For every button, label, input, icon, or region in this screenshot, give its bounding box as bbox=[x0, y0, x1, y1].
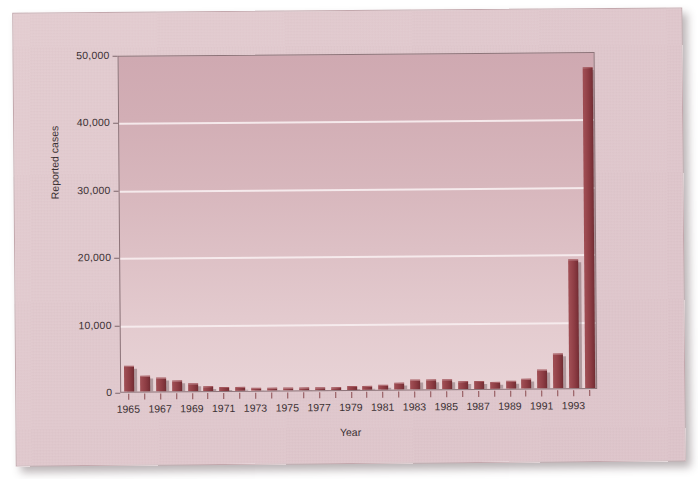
bar[interactable] bbox=[506, 382, 516, 389]
bar[interactable] bbox=[522, 380, 532, 389]
bar[interactable] bbox=[537, 371, 547, 389]
plot-area bbox=[118, 52, 598, 393]
x-axis-tick-mark bbox=[271, 393, 272, 399]
x-axis-tick-label: 1971 bbox=[212, 402, 235, 414]
y-axis-tick-mark bbox=[115, 325, 120, 326]
bar-fill bbox=[522, 379, 532, 389]
y-axis-tick-label: 40,000 bbox=[22, 116, 110, 129]
photo-page-card: 010,00020,00030,00040,00050,000 Reported… bbox=[12, 7, 686, 466]
x-axis-tick-mark bbox=[192, 393, 193, 399]
bar[interactable] bbox=[568, 260, 579, 388]
bar-fill bbox=[204, 386, 214, 391]
bar[interactable] bbox=[267, 388, 277, 390]
bar-fill bbox=[235, 387, 245, 391]
x-axis-tick-mark bbox=[351, 392, 352, 398]
bar-fill bbox=[299, 387, 309, 390]
bar[interactable] bbox=[458, 382, 468, 389]
x-axis-tick-mark bbox=[303, 392, 304, 398]
bar[interactable] bbox=[347, 387, 357, 390]
y-axis-tick-mark bbox=[114, 191, 119, 192]
x-axis-tick-mark bbox=[239, 393, 240, 399]
x-axis-ticks: 1965196719691971197319751977197919811983… bbox=[13, 8, 681, 13]
bar-fill bbox=[568, 259, 579, 388]
bar-fill bbox=[410, 379, 420, 390]
bar-fill bbox=[537, 370, 547, 389]
bar[interactable] bbox=[490, 383, 500, 389]
x-axis-tick-label: 1987 bbox=[466, 400, 489, 412]
bar[interactable] bbox=[235, 388, 245, 391]
bar[interactable] bbox=[410, 380, 420, 390]
x-axis-tick-mark bbox=[224, 393, 225, 399]
bar-fill bbox=[188, 383, 198, 391]
y-axis-tick-mark bbox=[114, 258, 119, 259]
y-axis-ticks: 010,00020,00030,00040,00050,000 bbox=[13, 8, 681, 13]
bar-fill bbox=[347, 386, 357, 390]
x-axis-tick-label: 1969 bbox=[180, 402, 203, 414]
x-axis-tick-mark bbox=[255, 393, 256, 399]
x-axis-tick-mark bbox=[128, 394, 129, 400]
bar[interactable] bbox=[204, 387, 214, 391]
y-axis-tick-label: 50,000 bbox=[22, 49, 110, 62]
x-axis-tick-mark bbox=[542, 390, 543, 396]
x-axis-tick-label: 1979 bbox=[339, 401, 362, 413]
bar[interactable] bbox=[140, 376, 150, 392]
bar-fill bbox=[251, 387, 261, 390]
bar[interactable] bbox=[251, 388, 261, 390]
bar[interactable] bbox=[363, 387, 373, 390]
bar-fill bbox=[315, 387, 325, 390]
y-axis-title: Reported cases bbox=[48, 126, 61, 200]
x-axis-tick-label: 1977 bbox=[307, 401, 330, 413]
bar-fill bbox=[442, 379, 452, 390]
bar[interactable] bbox=[394, 384, 404, 390]
x-axis-tick-label: 1985 bbox=[435, 400, 458, 412]
bar-fill bbox=[379, 385, 389, 390]
bar-fill bbox=[458, 381, 468, 389]
bar[interactable] bbox=[283, 388, 293, 390]
bar[interactable] bbox=[426, 381, 436, 390]
x-axis-tick-mark bbox=[557, 390, 558, 396]
bar[interactable] bbox=[299, 388, 309, 390]
bar-fill bbox=[363, 386, 373, 390]
y-axis-tick-mark bbox=[113, 56, 118, 57]
bar-fill bbox=[156, 378, 166, 392]
bar[interactable] bbox=[379, 386, 389, 390]
bar-fill bbox=[490, 382, 500, 389]
bar[interactable] bbox=[172, 381, 182, 392]
bar-fill bbox=[553, 354, 563, 389]
x-axis-tick-label: 1973 bbox=[244, 402, 267, 414]
bar-fill bbox=[267, 387, 277, 390]
bar-fill bbox=[220, 387, 230, 391]
x-axis-tick-mark bbox=[319, 392, 320, 398]
x-axis-tick-label: 1965 bbox=[117, 403, 140, 415]
bar-fill bbox=[140, 375, 150, 392]
bar[interactable] bbox=[442, 380, 452, 390]
x-axis-tick-label: 1983 bbox=[403, 400, 426, 412]
bar-fill bbox=[474, 381, 484, 389]
bar-fill bbox=[124, 366, 134, 392]
bar[interactable] bbox=[315, 388, 325, 390]
x-axis-tick-label: 1993 bbox=[562, 399, 585, 411]
bar[interactable] bbox=[220, 388, 230, 391]
bar[interactable] bbox=[156, 379, 166, 392]
bar[interactable] bbox=[124, 367, 134, 392]
bar-fill bbox=[331, 387, 341, 390]
bar-chart: 010,00020,00030,00040,00050,000 Reported… bbox=[13, 8, 685, 465]
x-axis-tick-mark bbox=[446, 391, 447, 397]
x-axis-tick-mark bbox=[494, 391, 495, 397]
x-axis-tick-mark bbox=[478, 391, 479, 397]
bar-fill bbox=[506, 381, 516, 389]
bar[interactable] bbox=[553, 355, 563, 389]
bar[interactable] bbox=[331, 388, 341, 390]
x-axis-tick-mark bbox=[510, 391, 511, 397]
bar[interactable] bbox=[474, 382, 484, 389]
x-axis-tick-mark bbox=[414, 391, 415, 397]
bar-fill bbox=[172, 380, 182, 392]
bar-fill bbox=[394, 383, 404, 390]
bar[interactable] bbox=[188, 384, 198, 391]
x-axis-tick-mark bbox=[462, 391, 463, 397]
x-axis-title: Year bbox=[16, 423, 684, 440]
x-axis-tick-mark bbox=[335, 392, 336, 398]
y-axis-tick-label: 30,000 bbox=[23, 184, 111, 197]
x-axis-tick-label: 1991 bbox=[530, 399, 553, 411]
x-axis-tick-mark bbox=[367, 392, 368, 398]
